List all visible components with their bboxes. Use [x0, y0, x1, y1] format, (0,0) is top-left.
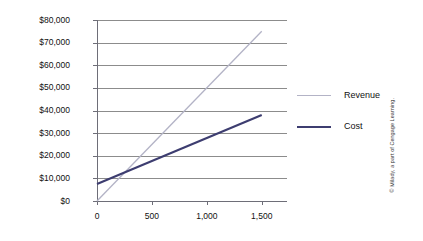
y-tick-label: $40,000 [12, 106, 70, 115]
legend-label-cost: Cost [344, 121, 363, 131]
legend-item-revenue: Revenue [295, 88, 395, 119]
x-tick-label: 0 [77, 212, 117, 221]
axes [97, 20, 287, 202]
series-line-cost [97, 115, 262, 184]
tick-marks [93, 21, 263, 206]
gridlines [97, 21, 287, 179]
y-tick-label: $50,000 [12, 83, 70, 92]
copyright-credit: © Milady, a part of Cengage Learning. [389, 98, 395, 192]
legend-label-revenue: Revenue [344, 90, 380, 100]
chart-legend: Revenue Cost [295, 88, 395, 150]
legend-swatch-cost [297, 126, 331, 128]
legend-swatch-revenue [297, 95, 331, 96]
y-tick-label: $0 [12, 197, 70, 206]
y-tick-label: $60,000 [12, 61, 70, 70]
x-tick-label: 1,000 [187, 212, 227, 221]
legend-item-cost: Cost [295, 119, 395, 150]
data-series [97, 31, 262, 201]
y-tick-label: $10,000 [12, 174, 70, 183]
x-tick-label: 500 [132, 212, 172, 221]
y-tick-label: $20,000 [12, 151, 70, 160]
y-tick-label: $30,000 [12, 129, 70, 138]
y-tick-label: $80,000 [12, 16, 70, 25]
y-tick-label: $70,000 [12, 38, 70, 47]
x-tick-label: 1,500 [242, 212, 282, 221]
series-line-revenue [97, 31, 262, 201]
chart-container: $0$10,000$20,000$30,000$40,000$50,000$60… [0, 0, 423, 241]
